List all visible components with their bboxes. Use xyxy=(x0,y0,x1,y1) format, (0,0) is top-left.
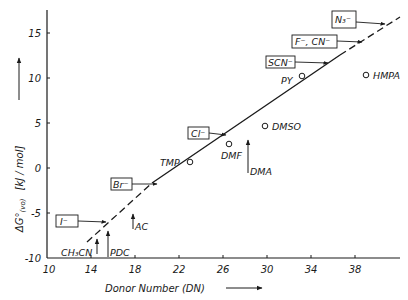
box-label-iodide: I⁻ xyxy=(60,216,68,227)
box-label-chloride: Cl⁻ xyxy=(191,128,205,139)
x-tick-label: 10 xyxy=(43,264,56,275)
x-tick-label: 22 xyxy=(173,264,186,275)
y-tick-label: 10 xyxy=(28,73,41,84)
y-tick-label: 5 xyxy=(35,118,41,129)
arrow-label-ac: AC xyxy=(134,221,148,232)
y-tick-label: -10 xyxy=(25,253,41,264)
x-tick-label: 14 xyxy=(85,264,98,275)
x-tick-label: 26 xyxy=(217,264,230,275)
fit-line-dashed-lower xyxy=(87,183,152,242)
data-point-dmso xyxy=(262,123,268,129)
box-label-azide: N₃⁻ xyxy=(335,14,351,25)
y-tick-label: 0 xyxy=(35,163,41,174)
point-label-tmp: TMP xyxy=(160,157,180,168)
data-point-tmp xyxy=(187,159,193,165)
arrow-iodide xyxy=(78,221,106,222)
x-axis-label: Donor Number (DN) xyxy=(105,283,205,294)
x-tick-label: 18 xyxy=(129,264,142,275)
x-tick-label: 38 xyxy=(349,264,362,275)
arrow-azide xyxy=(356,22,385,24)
y-axis-label: ΔG°(vo)[kJ / mol] xyxy=(14,146,27,233)
x-tick-label: 34 xyxy=(305,264,318,275)
box-label-fluoride-cyanide: F⁻, CN⁻ xyxy=(295,36,330,47)
point-label-hmpa: HMPA xyxy=(373,70,400,81)
arrow-label-pdc: PDC xyxy=(110,247,130,258)
arrow-thiocyanate xyxy=(295,62,328,63)
data-point-py xyxy=(299,73,305,79)
svg-text:ΔG°(vo)[kJ / mol]: ΔG°(vo)[kJ / mol] xyxy=(14,146,27,233)
data-point-hmpa xyxy=(363,72,369,78)
fit-line-solid xyxy=(152,55,340,183)
y-tick-label: 15 xyxy=(28,28,41,39)
y-tick-label: -5 xyxy=(31,208,41,219)
arrow-fluoride-cyanide xyxy=(337,41,362,42)
point-label-py: PY xyxy=(281,75,294,86)
point-label-dmso: DMSO xyxy=(272,121,302,132)
x-tick-label: 30 xyxy=(261,264,274,275)
data-point-dmf xyxy=(226,141,232,147)
box-label-bromide: Br⁻ xyxy=(113,179,128,190)
arrow-label-dma: DMA xyxy=(250,166,272,177)
arrow-label-ch3cn: CH₃CN xyxy=(61,247,92,258)
chart-canvas: 15 10 5 0 -5 -10 10 14 18 22 26 30 34 38… xyxy=(0,0,408,300)
box-label-thiocyanate: SCN⁻ xyxy=(268,57,293,68)
point-label-dmf: DMF xyxy=(221,150,243,161)
